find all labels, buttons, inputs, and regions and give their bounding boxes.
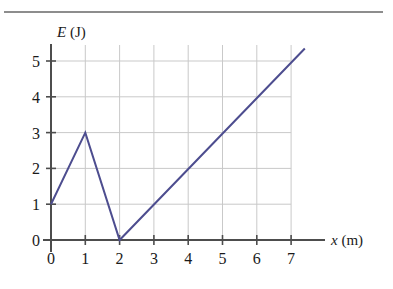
x-axis-tick-labels: 01234567 [47, 250, 295, 267]
energy-vs-position-chart: 01234567 012345 E (J) x (m) [0, 0, 393, 289]
y-tick-label-5: 5 [32, 53, 40, 70]
y-tick-label-3: 3 [32, 125, 40, 142]
vertical-gridlines [85, 45, 291, 240]
y-tick-label-1: 1 [32, 196, 40, 213]
y-axis-title: E (J) [56, 24, 86, 41]
series-line-0 [51, 48, 305, 240]
x-tick-label-6: 6 [253, 250, 261, 267]
x-tick-label-4: 4 [184, 250, 192, 267]
y-tick-label-2: 2 [32, 160, 40, 177]
x-tick-label-1: 1 [81, 250, 89, 267]
figure-container: 01234567 012345 E (J) x (m) [0, 0, 393, 289]
x-tick-label-7: 7 [287, 250, 295, 267]
x-axis-title: x (m) [330, 232, 363, 249]
horizontal-gridlines [51, 61, 291, 204]
y-tick-label-0: 0 [32, 232, 40, 249]
x-tick-label-3: 3 [150, 250, 158, 267]
y-axis-tick-labels: 012345 [32, 53, 40, 249]
y-tick-label-4: 4 [32, 89, 40, 106]
x-tick-label-5: 5 [219, 250, 227, 267]
x-tick-label-2: 2 [116, 250, 124, 267]
data-series-group [51, 48, 305, 240]
x-tick-label-0: 0 [47, 250, 55, 267]
